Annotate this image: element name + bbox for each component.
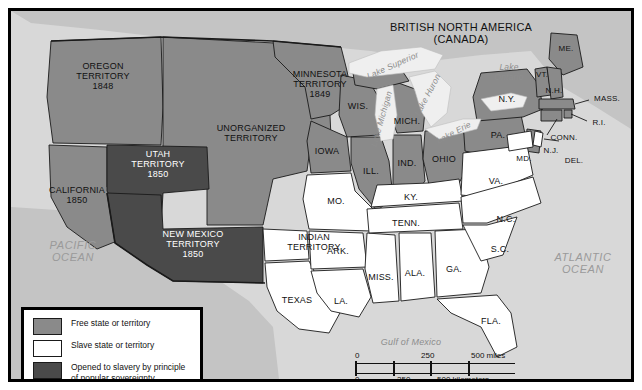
label-massachusetts: MASS. [594,95,620,104]
scale-tick-0 [355,361,357,376]
label-delaware: DEL. [565,157,584,166]
label-utah-territory: UTAH TERRITORY 1850 [131,149,184,179]
label-georgia: GA. [446,264,462,274]
label-wisconsin: WIS. [348,101,368,111]
label-newyork: N.Y. [498,94,515,104]
label-iowa: IOWA [315,146,339,156]
label-louisiana: LA. [334,296,348,306]
label-vermont: VT. [536,71,548,80]
label-maine: ME. [559,45,574,54]
label-ohio: OHIO [432,154,456,164]
scale-miles-zero: 0 [355,351,359,360]
label-newhampshire: N.H. [546,87,563,96]
legend-label-free: Free state or territory [71,317,150,329]
label-pacific-ocean: PACIFIC OCEAN [50,239,97,264]
label-texas: TEXAS [282,295,313,305]
label-kentucky: KY. [404,192,418,202]
label-northcarolina: N.C. [497,214,516,224]
label-newjersey: N.J. [543,147,558,156]
scale-km-max: 500 kilometers [437,375,489,382]
scale-tick-2 [430,361,432,376]
scale-miles-mid: 250 [421,351,434,360]
legend-swatch-slave [33,340,62,357]
label-rhodeisland: R.I. [592,119,605,128]
label-unorganized-territory: UNORGANIZED TERRITORY [217,123,286,143]
legend-swatch-free [33,318,62,335]
label-lake-superior: Lake Superior [366,50,421,81]
label-indiana: IND. [398,158,417,168]
label-lake-ontario: Lake Ontario [494,63,523,82]
scale-tick-1 [393,361,395,376]
label-lake-michigan: Lake Michigan [370,90,395,148]
map-scale-bar: 0 250 500 miles 0 250 500 kilometers [355,351,515,382]
map-legend: Free state or territory Slave state or t… [21,307,203,382]
scale-tick-3 [468,361,470,376]
label-canada: BRITISH NORTH AMERICA (CANADA) [390,21,532,46]
label-atlantic-ocean: ATLANTIC OCEAN [554,251,611,276]
label-alabama: ALA. [405,268,425,278]
label-tennessee: TENN. [392,218,420,228]
label-illinois: ILL. [363,166,379,176]
label-oregon-territory: OREGON TERRITORY 1848 [76,61,129,91]
legend-swatch-popular-sovereignty [33,362,62,379]
label-mississippi: MISS. [368,272,394,282]
scale-km-mid: 250 [397,375,410,382]
label-gulf-of-mexico: Gulf of Mexico [381,337,441,347]
label-minnesota-territory: MINNESOTA TERRITORY 1849 [293,69,348,99]
label-maryland: MD. [516,155,531,164]
label-lake-erie: Lake Erie [435,120,473,146]
label-missouri: MO. [327,196,345,206]
legend-label-slave: Slave state or territory [71,339,154,351]
label-southcarolina: S.C. [491,244,509,254]
label-california: CALIFORNIA 1850 [49,185,105,205]
scale-km-zero: 0 [355,375,359,382]
legend-label-popular-sovereignty: Opened to slavery by principle of popula… [71,361,193,382]
label-connecticut: CONN. [551,134,578,143]
label-arkansas: ARK. [327,246,349,256]
legend-item-popular-sovereignty: Opened to slavery by principle of popula… [33,361,193,382]
historical-map: .free{fill:#8a8a8a;stroke:#1a1a1a;stroke… [0,0,642,390]
label-pennsylvania: PA. [491,130,505,140]
label-new-mexico-territory: NEW MEXICO TERRITORY 1850 [162,229,223,259]
label-florida: FLA. [481,316,501,326]
scale-km-row: 0 250 500 kilometers [355,375,515,382]
scale-miles-row: 0 250 500 miles [355,351,515,362]
label-michigan: MICH. [394,116,421,126]
map-frame: .free{fill:#8a8a8a;stroke:#1a1a1a;stroke… [8,8,634,382]
scale-bar-line [355,363,515,374]
scale-miles-max: 500 miles [471,351,505,360]
label-virginia: VA. [489,176,503,186]
label-lake-huron: Lake Huron [413,72,443,117]
legend-item-slave: Slave state or territory [33,339,193,357]
legend-item-free: Free state or territory [33,317,193,335]
